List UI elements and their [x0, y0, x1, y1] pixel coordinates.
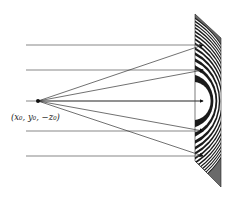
source-coordinate-label: (x₀, y₀, −z₀) [11, 112, 60, 122]
point-source-rays [38, 45, 203, 156]
hologram-diagram [0, 0, 237, 198]
point-source-dot [36, 99, 40, 103]
plane-wave-rays [26, 45, 203, 156]
